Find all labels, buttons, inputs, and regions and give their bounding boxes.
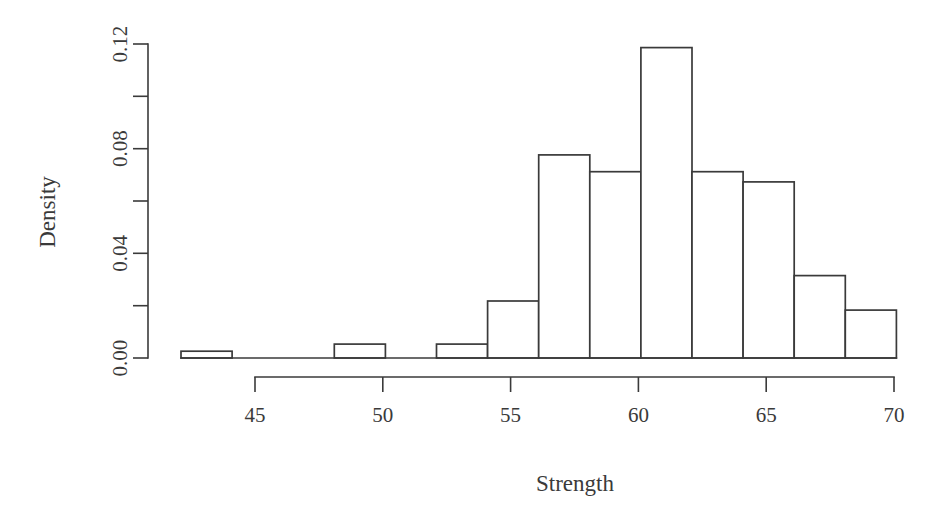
histogram-figure: 0.00 0.04 0.08 0.12 [0, 0, 940, 522]
y-tick-label-3: 0.12 [108, 26, 132, 63]
histogram-bar [334, 344, 385, 358]
histogram-bar [845, 310, 896, 358]
y-tick-label-1: 0.04 [108, 234, 132, 271]
x-tick-label-70: 70 [884, 403, 905, 427]
x-axis: 45 50 55 60 65 70 [245, 377, 905, 427]
x-tick-label-65: 65 [756, 403, 777, 427]
x-tick-label-45: 45 [245, 403, 266, 427]
histogram-bar [181, 351, 232, 358]
y-axis-title: Density [35, 176, 60, 248]
histogram-bar [590, 172, 641, 358]
x-tick-label-55: 55 [500, 403, 521, 427]
histogram-bar [539, 155, 590, 358]
histogram-plot: 0.00 0.04 0.08 0.12 [0, 0, 940, 522]
histogram-bar [437, 344, 488, 358]
y-axis: 0.00 0.04 0.08 0.12 [108, 26, 148, 377]
x-tick-label-50: 50 [372, 403, 393, 427]
histogram-bar [641, 48, 692, 358]
y-tick-label-2: 0.08 [108, 130, 132, 167]
histogram-bars [181, 48, 896, 358]
x-axis-title: Strength [536, 471, 614, 496]
histogram-bar [692, 172, 743, 358]
y-tick-label-0: 0.00 [108, 340, 132, 377]
x-tick-label-60: 60 [628, 403, 649, 427]
histogram-bar [488, 301, 539, 358]
histogram-bar [743, 182, 794, 358]
histogram-bar [794, 276, 845, 358]
